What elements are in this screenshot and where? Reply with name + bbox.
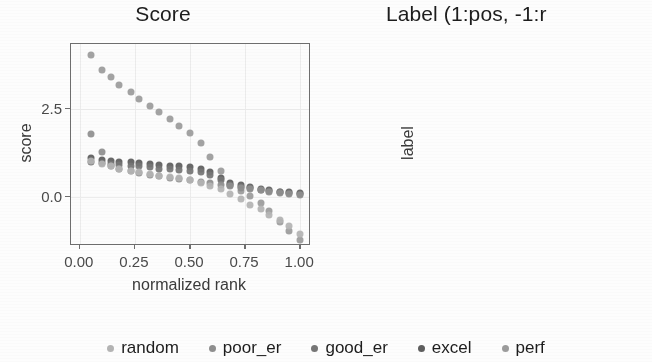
data-point <box>217 168 224 175</box>
y-axis-label-score: score <box>17 123 35 162</box>
data-point <box>98 160 105 167</box>
data-point <box>206 171 213 178</box>
data-point <box>237 184 244 191</box>
legend-marker-icon <box>107 345 114 352</box>
data-point <box>116 165 123 172</box>
data-point <box>175 122 182 129</box>
x-tick-label: 0.50 <box>174 253 203 270</box>
panel-score: Score score normalized rank 0.02.50.000.… <box>0 0 326 320</box>
y-tick-label: 0.0 <box>41 187 62 204</box>
data-point <box>217 185 224 192</box>
data-point <box>286 190 293 197</box>
data-point <box>107 163 114 170</box>
data-point <box>87 157 94 164</box>
gridline-vertical <box>80 44 81 244</box>
legend-marker-icon <box>311 345 318 352</box>
legend-marker-icon <box>209 345 216 352</box>
gridline-vertical <box>135 44 136 244</box>
data-point <box>297 237 304 244</box>
data-point <box>147 164 154 171</box>
data-point <box>127 89 134 96</box>
x-tick-mark <box>79 244 81 249</box>
data-point <box>98 66 105 73</box>
data-point <box>167 116 174 123</box>
panel-title-label: Label (1:pos, -1:r <box>386 2 652 26</box>
data-point <box>147 103 154 110</box>
x-tick-label: 1.00 <box>285 253 314 270</box>
y-tick-mark <box>65 108 70 110</box>
data-point <box>147 171 154 178</box>
data-point <box>246 202 253 209</box>
legend-item[interactable]: excel <box>418 338 472 358</box>
data-point <box>226 183 233 190</box>
gridline-vertical <box>245 44 246 244</box>
data-point <box>246 185 253 192</box>
legend-label: poor_er <box>223 338 282 358</box>
data-point <box>187 129 194 136</box>
legend: randompoor_ergood_erexcelperf <box>0 338 652 358</box>
data-point <box>277 190 284 197</box>
data-point <box>266 211 273 218</box>
x-tick-label: 0.00 <box>64 253 93 270</box>
legend-marker-icon <box>502 345 509 352</box>
data-point <box>257 206 264 213</box>
legend-label: excel <box>432 338 472 358</box>
x-tick-mark <box>189 244 191 249</box>
y-axis-label-label: label <box>399 126 417 160</box>
data-point <box>286 223 293 230</box>
y-tick-label: 2.5 <box>41 99 62 116</box>
data-point <box>98 149 105 156</box>
legend-item[interactable]: good_er <box>311 338 387 358</box>
panel-label: Label (1:pos, -1:r label normalized rank… <box>326 0 652 320</box>
data-point <box>246 192 253 199</box>
plot-area-score <box>70 43 310 245</box>
legend-label: good_er <box>325 338 387 358</box>
data-point <box>175 175 182 182</box>
data-point <box>87 51 94 58</box>
data-point <box>167 166 174 173</box>
data-point <box>277 217 284 224</box>
data-point <box>198 179 205 186</box>
data-point <box>257 187 264 194</box>
data-point <box>167 173 174 180</box>
legend-item[interactable]: perf <box>502 338 545 358</box>
legend-item[interactable]: random <box>107 338 179 358</box>
x-tick-mark <box>299 244 301 249</box>
x-axis-label-score: normalized rank <box>132 276 246 294</box>
data-point <box>87 131 94 138</box>
data-point <box>156 165 163 172</box>
data-point <box>136 169 143 176</box>
data-point <box>237 196 244 203</box>
data-point <box>116 82 123 89</box>
gridline-vertical <box>300 44 301 244</box>
y-tick-mark <box>65 196 70 198</box>
legend-label: random <box>121 338 179 358</box>
data-point <box>206 183 213 190</box>
data-point <box>198 169 205 176</box>
data-point <box>198 140 205 147</box>
data-point <box>297 230 304 237</box>
data-point <box>127 167 134 174</box>
data-point <box>226 190 233 197</box>
data-point <box>156 172 163 179</box>
figure-root: Score score normalized rank 0.02.50.000.… <box>0 0 652 362</box>
data-point <box>175 166 182 173</box>
x-tick-mark <box>134 244 136 249</box>
legend-item[interactable]: poor_er <box>209 338 282 358</box>
x-tick-mark <box>244 244 246 249</box>
data-point <box>187 167 194 174</box>
gridline-vertical <box>190 44 191 244</box>
data-point <box>107 74 114 81</box>
data-point <box>156 109 163 116</box>
x-tick-label: 0.75 <box>229 253 258 270</box>
panel-title-score: Score <box>0 2 326 26</box>
data-point <box>187 176 194 183</box>
data-point <box>297 191 304 198</box>
data-point <box>136 96 143 103</box>
data-point <box>206 154 213 161</box>
x-tick-label: 0.25 <box>119 253 148 270</box>
legend-label: perf <box>516 338 545 358</box>
data-point <box>266 188 273 195</box>
legend-marker-icon <box>418 345 425 352</box>
